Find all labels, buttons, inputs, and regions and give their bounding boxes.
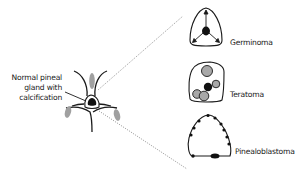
label-line-3: calcification [4, 93, 62, 103]
teratoma-label: Teratoma [230, 90, 264, 100]
normal-pineal-label: Normal pineal gland with calcification [4, 73, 62, 103]
label-pointer-line [65, 92, 86, 101]
pinealoblastoma-illustration [188, 114, 231, 159]
germinoma-illustration [190, 8, 222, 46]
gray-lobe-top [89, 73, 95, 89]
dotted-guide-upper [98, 16, 183, 90]
dotted-guide-lower [99, 111, 187, 169]
gray-lobe-right [113, 108, 122, 121]
germinoma-label: Germinoma [230, 38, 273, 48]
pinealoblastoma-label: Pinealoblastoma [235, 147, 295, 157]
label-line-1: Normal pineal [4, 73, 62, 83]
teratoma-illustration [189, 62, 224, 102]
label-line-2: gland with [4, 83, 62, 93]
